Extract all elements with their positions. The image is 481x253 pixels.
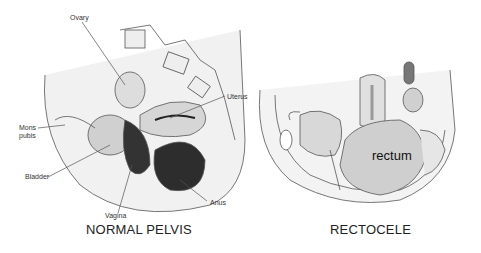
label-mons-pubis: Mons pubis: [19, 124, 36, 140]
title-normal-pelvis: NORMAL PELVIS: [86, 222, 192, 237]
title-rectocele: RECTOCELE: [330, 222, 411, 237]
label-uterus: Uterus: [227, 93, 248, 101]
label-rectum: rectum: [372, 148, 412, 163]
label-anus: Anus: [210, 199, 226, 207]
label-ovary: Ovary: [70, 14, 89, 22]
label-bladder: Bladder: [25, 173, 49, 181]
normal-pelvis-drawing: [44, 25, 245, 212]
anatomy-illustration: [0, 0, 481, 253]
rectocele-drawing: [259, 62, 455, 203]
label-vagina: Vagina: [105, 212, 126, 220]
